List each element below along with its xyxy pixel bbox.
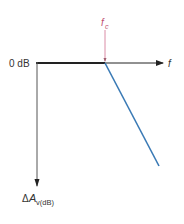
- gain-axis-arrowhead: [35, 179, 40, 187]
- rolloff-line: [105, 63, 159, 166]
- gain-axis-label: Δ A v(dB): [22, 192, 54, 207]
- cutoff-label-sub: c: [105, 23, 109, 30]
- gain-axis-label-delta: Δ: [22, 193, 29, 204]
- zero-db-label: 0 dB: [9, 58, 30, 69]
- frequency-axis-label: f: [168, 58, 172, 69]
- bode-diagram: 0 dB f f c Δ A v(dB): [0, 0, 184, 224]
- gain-axis-label-sub: v(dB): [36, 198, 54, 207]
- cutoff-label: f c: [101, 17, 109, 30]
- cutoff-marker-arrowhead: [104, 58, 107, 62]
